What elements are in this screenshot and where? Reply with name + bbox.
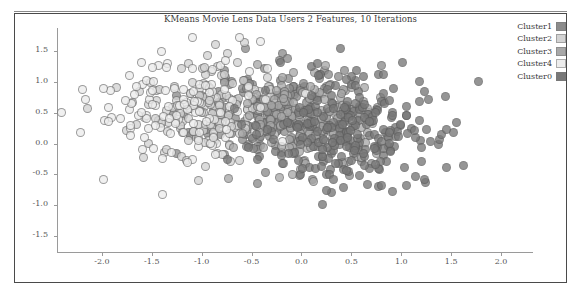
scatter-point xyxy=(396,120,405,129)
scatter-point xyxy=(278,137,287,146)
x-tick-label: 1.5 xyxy=(431,257,471,266)
scatter-point xyxy=(415,77,424,86)
y-tick-label: -1.5 xyxy=(14,230,48,239)
scatter-point xyxy=(99,175,108,184)
scatter-point xyxy=(245,67,254,76)
scatter-point xyxy=(244,91,253,100)
scatter-point xyxy=(235,156,244,165)
scatter-point xyxy=(76,128,85,137)
scatter-point xyxy=(263,73,272,82)
scatter-point xyxy=(243,99,252,108)
scatter-point xyxy=(323,123,332,132)
scatter-point xyxy=(137,58,146,67)
scatter-point xyxy=(379,70,388,79)
scatter-point xyxy=(317,162,326,171)
scatter-point xyxy=(261,86,270,95)
scatter-point xyxy=(211,150,220,159)
legend-color-swatch xyxy=(556,72,566,81)
scatter-point xyxy=(116,114,125,123)
scatter-point xyxy=(388,111,397,120)
scatter-point xyxy=(363,180,372,189)
scatter-point xyxy=(253,179,262,188)
scatter-point xyxy=(474,77,483,86)
scatter-point xyxy=(318,145,327,154)
y-tick-label: -1.0 xyxy=(14,199,48,208)
scatter-point xyxy=(166,129,175,138)
scatter-point xyxy=(452,118,461,127)
x-tick-mark xyxy=(351,253,352,256)
scatter-point xyxy=(126,131,135,140)
x-tick-label: 0.5 xyxy=(331,257,371,266)
figure-canvas: KMeans Movie Lens Data Users 2 Features,… xyxy=(0,0,581,295)
legend-item-cluster0[interactable]: Cluster0 xyxy=(500,70,566,83)
scatter-point xyxy=(283,118,292,127)
scatter-point xyxy=(228,79,237,88)
scatter-point xyxy=(183,158,192,167)
scatter-point xyxy=(411,172,420,181)
scatter-plot-area xyxy=(57,28,533,253)
scatter-point xyxy=(179,128,188,137)
x-tick-mark xyxy=(451,253,452,256)
scatter-point xyxy=(424,95,433,104)
legend-item-cluster2[interactable]: Cluster2 xyxy=(500,33,566,46)
x-tick-mark xyxy=(102,253,103,256)
scatter-point xyxy=(324,70,333,79)
x-tick-label: -0.5 xyxy=(232,257,272,266)
scatter-point xyxy=(294,156,303,165)
x-tick-mark xyxy=(501,253,502,256)
scatter-point xyxy=(360,100,369,109)
scatter-point xyxy=(194,176,203,185)
scatter-point xyxy=(298,164,307,173)
scatter-point xyxy=(398,58,407,67)
scatter-point xyxy=(253,155,262,164)
y-tick-label: 0.0 xyxy=(14,138,48,147)
scatter-point xyxy=(422,125,431,134)
scatter-point xyxy=(385,139,394,148)
scatter-point xyxy=(220,85,229,94)
scatter-point xyxy=(417,157,426,166)
scatter-point xyxy=(195,128,204,137)
scatter-point xyxy=(394,132,403,141)
scatter-point xyxy=(261,168,270,177)
scatter-point xyxy=(359,149,368,158)
scatter-point xyxy=(339,183,348,192)
y-tick-mark xyxy=(54,144,57,145)
scatter-point xyxy=(83,104,92,113)
scatter-point xyxy=(211,40,220,49)
legend-item-cluster3[interactable]: Cluster3 xyxy=(500,45,566,58)
x-tick-label: 0.0 xyxy=(281,257,321,266)
scatter-point xyxy=(57,108,66,117)
scatter-point xyxy=(201,162,210,171)
scatter-point xyxy=(329,175,338,184)
scatter-point xyxy=(253,60,262,69)
scatter-point xyxy=(318,200,327,209)
scatter-point xyxy=(415,97,424,106)
scatter-point xyxy=(400,163,409,172)
scatter-point xyxy=(442,125,451,134)
scatter-point xyxy=(125,71,134,80)
scatter-point xyxy=(162,63,171,72)
scatter-point xyxy=(355,171,364,180)
legend-item-cluster1[interactable]: Cluster1 xyxy=(500,20,566,33)
scatter-point xyxy=(402,102,411,111)
scatter-point xyxy=(278,159,287,168)
scatter-point xyxy=(365,117,374,126)
scatter-point xyxy=(230,104,239,113)
y-tick-label: 0.5 xyxy=(14,107,48,116)
scatter-point xyxy=(81,95,90,104)
x-tick-mark xyxy=(202,253,203,256)
scatter-point xyxy=(121,96,130,105)
scatter-point xyxy=(402,111,411,120)
scatter-point xyxy=(359,72,368,81)
scatter-point xyxy=(148,63,157,72)
scatter-point xyxy=(104,103,113,112)
scatter-point xyxy=(385,128,394,137)
x-tick-label: -2.0 xyxy=(82,257,122,266)
scatter-point xyxy=(263,125,272,134)
scatter-point xyxy=(417,143,426,152)
legend-item-cluster4[interactable]: Cluster4 xyxy=(500,58,566,71)
scatter-point xyxy=(263,64,272,73)
scatter-point xyxy=(402,181,411,190)
legend-color-swatch xyxy=(556,59,566,68)
scatter-point xyxy=(386,147,395,156)
